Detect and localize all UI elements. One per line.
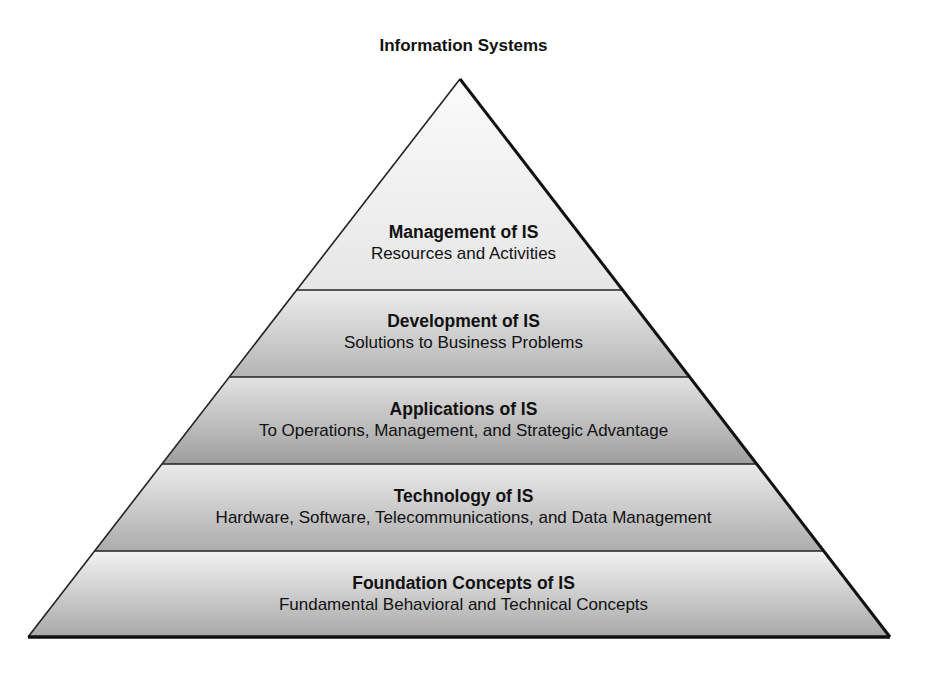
layer-heading: Technology of IS (0, 485, 927, 507)
layer-subtitle: Solutions to Business Problems (0, 332, 927, 354)
layer-subtitle: Fundamental Behavioral and Technical Con… (0, 594, 927, 616)
layer-development-label: Development of IS Solutions to Business … (0, 310, 927, 354)
layer-heading: Foundation Concepts of IS (0, 572, 927, 594)
layer-management-label: Management of IS Resources and Activitie… (0, 221, 927, 265)
layer-technology-label: Technology of IS Hardware, Software, Tel… (0, 485, 927, 529)
layer-applications-label: Applications of IS To Operations, Manage… (0, 398, 927, 442)
layer-subtitle: Hardware, Software, Telecommunications, … (0, 507, 927, 529)
layer-subtitle: Resources and Activities (0, 243, 927, 265)
layer-subtitle: To Operations, Management, and Strategic… (0, 420, 927, 442)
layer-heading: Applications of IS (0, 398, 927, 420)
layer-heading: Development of IS (0, 310, 927, 332)
layer-foundation-label: Foundation Concepts of IS Fundamental Be… (0, 572, 927, 616)
layer-heading: Management of IS (0, 221, 927, 243)
